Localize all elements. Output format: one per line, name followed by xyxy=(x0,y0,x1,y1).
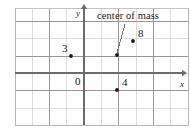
annotation-center-of-mass-label: center of mass xyxy=(97,11,159,22)
point-4-dot xyxy=(115,88,119,92)
y-axis-arrowhead xyxy=(81,4,87,9)
point-8-dot xyxy=(131,39,135,43)
point-label-3: 3 xyxy=(62,43,68,54)
point-label-4: 4 xyxy=(122,77,128,88)
grid-lines xyxy=(15,8,188,125)
x-axis-label: x xyxy=(180,80,184,89)
point-label-8: 8 xyxy=(138,28,144,39)
axis-lines xyxy=(15,4,187,125)
center-of-mass-figure: center of mass 3 8 4 0 x y xyxy=(0,0,191,130)
x-axis-arrowhead xyxy=(182,70,187,76)
point-center-of-mass-dot xyxy=(115,53,119,57)
origin-label: 0 xyxy=(75,76,81,87)
graph-canvas xyxy=(0,0,191,130)
point-3-dot xyxy=(69,54,73,58)
y-axis-label: y xyxy=(76,9,80,18)
